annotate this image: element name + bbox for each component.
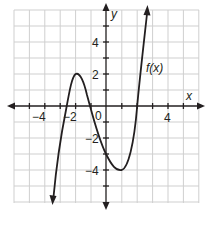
function-graph: x y f(x) 0 −4 −2 4 4 2 −2 −4	[0, 0, 208, 225]
function-label: f(x)	[146, 61, 163, 75]
origin-label: 0	[95, 109, 102, 123]
y-tick-label-pos2: 2	[92, 68, 99, 82]
x-axis-label: x	[185, 89, 193, 103]
curve-arrow-down	[50, 195, 57, 205]
y-tick-label-neg4: −4	[85, 164, 99, 178]
x-tick-label-neg2: −2	[63, 110, 77, 124]
x-tick-label-pos4: 4	[164, 111, 171, 125]
x-tick-label-neg4: −4	[32, 110, 46, 124]
y-axis-label: y	[110, 7, 118, 21]
y-tick-label-pos4: 4	[92, 36, 99, 50]
function-curve	[50, 5, 151, 205]
y-tick-label-neg2: −2	[85, 132, 99, 146]
